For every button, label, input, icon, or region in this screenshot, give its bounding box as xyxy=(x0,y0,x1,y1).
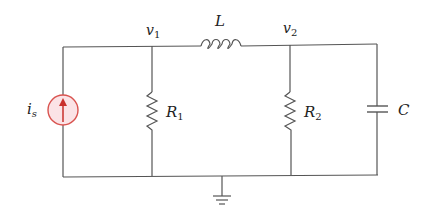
circuit-diagram: v1 v2 L is R1 R2 C xyxy=(0,0,430,218)
inductor-label: L xyxy=(214,12,225,30)
current-source xyxy=(48,95,78,125)
capacitor-c xyxy=(367,106,388,112)
capacitor-label: C xyxy=(398,101,410,119)
source-label: is xyxy=(27,100,37,119)
resistor-r1 xyxy=(147,92,157,134)
node-label-v2: v2 xyxy=(283,20,297,38)
node-label-v1: v1 xyxy=(146,22,160,40)
wires xyxy=(63,44,378,196)
ground-icon xyxy=(213,196,231,204)
r2-label: R2 xyxy=(303,103,322,122)
inductor-l xyxy=(201,40,241,49)
r1-label: R1 xyxy=(165,103,184,122)
resistor-r2 xyxy=(285,92,295,134)
